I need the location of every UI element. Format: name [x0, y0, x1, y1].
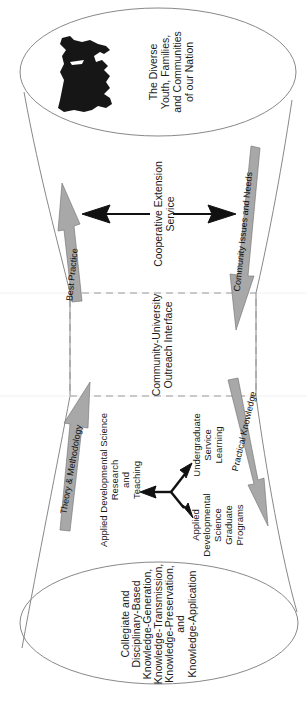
grad-line-5: Programs [234, 504, 245, 545]
extension-line-1: Cooperative Extension [152, 161, 164, 267]
undergrad-line-3: Learning [213, 427, 224, 464]
research-teaching-text: Applied Developmental Science Research a… [98, 413, 142, 547]
usa-map-icon [58, 36, 112, 112]
theory-methodology-arrow: Theory & Methodology [58, 382, 90, 531]
research-line-4: Teaching [131, 461, 142, 499]
top-text-line-4: of our Nation [183, 42, 195, 102]
research-line-1: Applied Developmental Science [98, 413, 109, 547]
graduate-programs-text: Applied Developmental Science Graduate P… [190, 493, 245, 556]
interface-line-2: Outreach Interface [162, 301, 174, 388]
outreach-interface-text: Community-University Outreach Interface [150, 293, 174, 396]
practical-knowledge-arrow: Practical Knowledge [228, 378, 268, 526]
undergrad-line-1: Undergraduate [191, 413, 202, 476]
undergrad-service-text: Undergraduate Service Learning [191, 413, 224, 476]
research-line-2: Research [109, 460, 120, 501]
hourglass-left-edge [22, 92, 70, 648]
best-practice-arrow: Best Practice [58, 183, 82, 302]
cooperative-extension-text: Cooperative Extension Service [152, 161, 176, 267]
grad-line-1: Applied [190, 509, 201, 541]
three-way-arrow [140, 463, 193, 518]
bottom-line-6: and [174, 615, 186, 633]
grad-line-3: Science [212, 508, 223, 542]
top-text-line-3: and Communities [171, 31, 183, 113]
top-ellipse-text: The Diverse Youth, Families, and Communi… [147, 31, 195, 113]
research-line-3: and [120, 472, 131, 488]
interface-line-1: Community-University [150, 293, 162, 396]
grad-line-4: Graduate [223, 505, 234, 545]
top-text-line-2: Youth, Families, [159, 35, 171, 109]
grad-line-2: Developmental [201, 493, 212, 556]
extension-line-2: Service [164, 196, 176, 231]
bottom-line-7: Knowledge-Application [186, 570, 198, 677]
hourglass-right-edge [256, 100, 297, 612]
top-text-line-1: The Diverse [147, 44, 159, 101]
hourglass-diagram: The Diverse Youth, Families, and Communi… [0, 0, 307, 706]
undergrad-line-2: Service [202, 429, 213, 461]
bottom-ellipse-text: Collegiate and Disciplinary-Based Knowle… [119, 564, 198, 684]
